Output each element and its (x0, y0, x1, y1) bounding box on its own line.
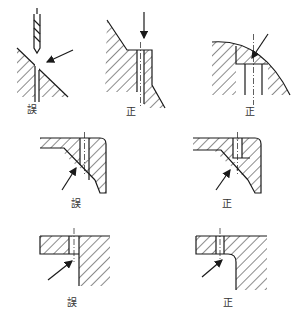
panel-5-correct (193, 132, 261, 193)
label-panel-7: 正 (223, 298, 233, 308)
label-panel-2: 正 (126, 107, 136, 117)
drill-bit-icon (34, 8, 40, 53)
panel-4-wrong (40, 132, 106, 193)
panel-6-wrong (40, 228, 110, 286)
panel-2-correct (105, 12, 165, 108)
label-panel-1: 誤 (27, 105, 37, 115)
panel-3-correct (212, 34, 290, 105)
diagram-canvas (0, 0, 299, 315)
panel-1-wrong (17, 8, 73, 102)
label-panel-3: 正 (245, 107, 255, 117)
panel-7-correct (196, 228, 267, 290)
label-panel-4: 誤 (71, 199, 81, 209)
label-panel-6: 誤 (67, 298, 77, 308)
label-panel-5: 正 (222, 199, 232, 209)
